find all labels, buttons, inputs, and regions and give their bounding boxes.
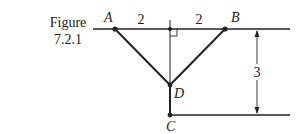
midpoint <box>168 27 172 31</box>
label-height: 3 <box>254 65 261 80</box>
segment-AD <box>115 29 170 85</box>
point-D <box>168 83 173 88</box>
label-right-length: 2 <box>196 12 203 27</box>
label-D: D <box>173 86 184 101</box>
label-B: B <box>231 10 240 25</box>
point-A <box>112 26 117 31</box>
point-C <box>168 113 173 118</box>
geometry-diagram: A B D C 2 2 3 <box>0 0 308 134</box>
arrow-down-icon <box>255 107 260 114</box>
point-B <box>222 26 227 31</box>
label-left-length: 2 <box>138 12 145 27</box>
label-C: C <box>166 119 176 134</box>
arrow-up-icon <box>255 30 260 37</box>
label-A: A <box>103 10 113 25</box>
segment-BD <box>170 29 225 85</box>
